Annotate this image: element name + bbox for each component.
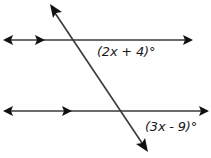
top-angle-label: (2x + 4)° — [97, 44, 155, 59]
parallel-lines-diagram — [0, 0, 211, 158]
bottom-parallel-line — [3, 106, 209, 116]
bottom-angle-label: (3x - 9)° — [145, 119, 197, 134]
arrowhead-down-icon — [136, 138, 148, 152]
transversal-line — [50, 4, 148, 152]
